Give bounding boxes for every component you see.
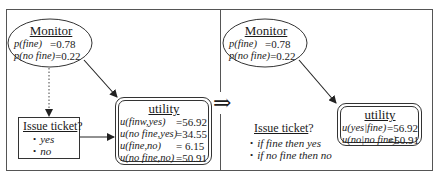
decision-policy-option: if no fine then no xyxy=(250,149,332,161)
right-utility-title: utility xyxy=(342,108,418,122)
left-decision-suffix: ? xyxy=(77,119,82,133)
prob-label: p(no fine) xyxy=(14,50,55,62)
prob-label: p(no fine) xyxy=(229,50,270,62)
utility-row: u(no fine,no) =50.91 xyxy=(120,152,208,164)
left-monitor-title: Monitor xyxy=(14,24,88,38)
utility-row: u(yes|fine) =56.92 xyxy=(342,122,418,134)
right-decision-suffix: ? xyxy=(308,121,313,135)
utility-row: u(no|no fine) =50.91 xyxy=(342,134,418,146)
left-monitor-node: Monitor p(fine) =0.78 p(no fine) =0.22 xyxy=(14,24,88,62)
prob-value: =0.78 xyxy=(265,38,290,50)
utility-value: =50.91 xyxy=(388,134,419,146)
right-decision-title: Issue ticket xyxy=(254,121,308,135)
prob-label: p(fine) xyxy=(229,38,265,50)
decision-policy-option: if fine then yes xyxy=(250,137,332,149)
left-utility-title: utility xyxy=(120,102,208,116)
left-monitor-row: p(fine) =0.78 xyxy=(14,38,88,50)
utility-label: u(yes|fine) xyxy=(342,122,387,134)
left-decision-node: Issue ticket? yes no xyxy=(18,117,80,159)
utility-value: = 6.15 xyxy=(176,140,204,152)
decision-option: no xyxy=(33,145,79,157)
prob-value: =0.22 xyxy=(55,50,80,62)
left-decision-options: yes no xyxy=(33,133,79,157)
right-monitor-row: p(no fine) =0.22 xyxy=(229,50,303,62)
utility-label: u(no fine,yes) xyxy=(120,128,176,140)
utility-value: =56.92 xyxy=(176,116,207,128)
right-decision-node: Issue ticket? if fine then yes if no fin… xyxy=(250,122,332,161)
right-monitor-row: p(fine) =0.78 xyxy=(229,38,303,50)
left-monitor-to-utility-arrow xyxy=(84,60,117,97)
prob-value: =0.78 xyxy=(50,38,75,50)
left-monitor-row: p(no fine) =0.22 xyxy=(14,50,88,62)
utility-value: =56.92 xyxy=(387,122,418,134)
utility-label: u(fine,no) xyxy=(120,140,176,152)
decision-option: yes xyxy=(33,133,79,145)
utility-label: u(no fine,no) xyxy=(120,152,176,164)
left-utility-node: utility u(finw,yes) =56.92 u(no fine,yes… xyxy=(115,97,212,165)
utility-label: u(finw,yes) xyxy=(120,116,176,128)
utility-row: u(no fine,yes) =34.55 xyxy=(120,128,208,140)
right-monitor-node: Monitor p(fine) =0.78 p(no fine) =0.22 xyxy=(229,24,303,62)
utility-row: u(fine,no) = 6.15 xyxy=(120,140,208,152)
implies-arrow-icon: ⇒ xyxy=(212,92,232,114)
utility-label: u(no|no fine) xyxy=(342,134,388,146)
utility-value: =34.55 xyxy=(176,128,207,140)
prob-value: =0.22 xyxy=(270,50,295,62)
prob-label: p(fine) xyxy=(14,38,50,50)
right-monitor-to-utility-arrow xyxy=(299,60,336,103)
right-monitor-title: Monitor xyxy=(229,24,303,38)
right-decision-options: if fine then yes if no fine then no xyxy=(250,137,332,161)
right-utility-node: utility u(yes|fine) =56.92 u(no|no fine)… xyxy=(337,103,422,146)
utility-value: =50.91 xyxy=(176,152,207,164)
left-decision-title: Issue ticket xyxy=(23,119,77,133)
utility-row: u(finw,yes) =56.92 xyxy=(120,116,208,128)
